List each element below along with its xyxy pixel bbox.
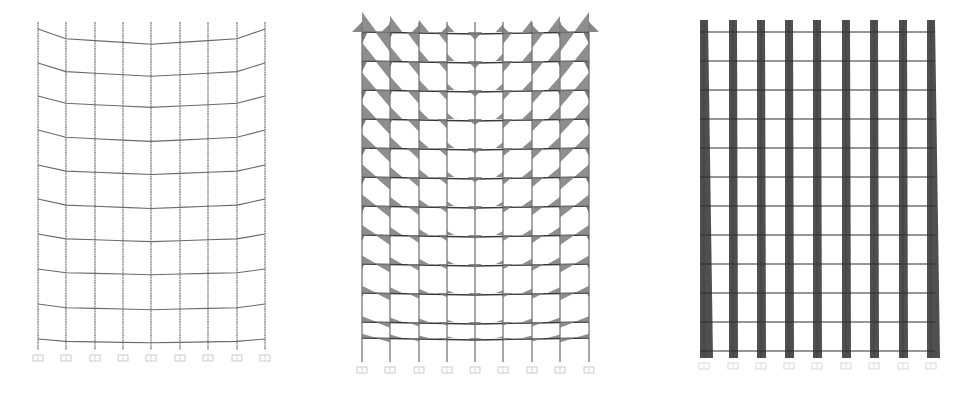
- moment-triangle: [437, 235, 447, 241]
- moment-triangle: [375, 119, 390, 135]
- moment-triangle: [560, 119, 575, 135]
- moment-triangle: [390, 46, 402, 61]
- moment-triangle: [447, 320, 454, 322]
- moment-triangle: [522, 169, 532, 177]
- roof-moment-triangle: [560, 24, 569, 33]
- moment-triangle: [496, 113, 503, 119]
- moment-triangle: [375, 293, 390, 300]
- moment-triangle: [407, 32, 419, 48]
- moment-triangle: [522, 80, 532, 90]
- moment-triangle: [574, 225, 589, 235]
- moment-triangle: [468, 61, 475, 68]
- moment-triangle: [560, 177, 575, 190]
- moment-triangle: [560, 338, 575, 342]
- column-moment-wedge: [362, 264, 364, 269]
- moment-triangle: [362, 334, 377, 338]
- moment-triangle: [574, 334, 589, 338]
- moment-triangle: [390, 197, 402, 206]
- moment-triangle: [503, 206, 513, 213]
- moment-triangle: [496, 261, 503, 264]
- moment-triangle: [419, 319, 429, 322]
- moment-triangle: [362, 42, 377, 61]
- moment-triangle: [560, 235, 575, 245]
- moment-triangle: [522, 229, 532, 235]
- column-moment-wedge: [584, 90, 589, 100]
- moment-triangle: [560, 206, 575, 217]
- moment-triangle: [503, 177, 513, 185]
- roof-moment-triangle: [382, 24, 391, 33]
- moment-triangle: [407, 148, 419, 159]
- moment-triangle: [362, 316, 377, 322]
- moment-triangle: [560, 90, 575, 107]
- moment-triangle: [390, 257, 402, 264]
- moment-triangle: [548, 197, 560, 206]
- moment-triangle: [437, 177, 447, 185]
- column-moment-wedge: [584, 119, 589, 128]
- moment-triangle: [548, 227, 560, 235]
- moment-triangle: [532, 90, 544, 104]
- moment-triangle: [419, 229, 429, 235]
- roof-moment-triangle: [352, 22, 362, 32]
- moment-triangle: [437, 293, 447, 297]
- moment-triangle: [560, 61, 575, 80]
- moment-triangle: [419, 139, 429, 148]
- moment-triangle: [475, 61, 482, 68]
- moment-triangle: [419, 199, 429, 206]
- moment-triangle: [375, 235, 390, 245]
- moment-triangle: [496, 142, 503, 148]
- moment-triangle: [574, 286, 589, 293]
- moment-triangle: [532, 61, 544, 76]
- moment-triangle: [407, 264, 419, 271]
- moment-triangle: [447, 290, 454, 293]
- moment-triangle: [390, 287, 402, 293]
- axial-force-bar: [870, 20, 879, 358]
- column-moment-wedge: [584, 61, 589, 72]
- moment-triangle: [437, 206, 447, 213]
- moment-triangle: [475, 119, 482, 125]
- axial-force-bar: [785, 20, 794, 358]
- moment-triangle: [475, 148, 482, 154]
- moment-triangle: [375, 177, 390, 190]
- moment-triangle: [503, 293, 513, 297]
- moment-triangle: [468, 90, 475, 97]
- moment-triangle: [560, 293, 575, 300]
- moment-triangle: [548, 137, 560, 148]
- column-moment-wedge: [586, 206, 589, 213]
- moment-triangle: [548, 46, 560, 61]
- axial-force-bar: [729, 20, 738, 358]
- moment-triangle: [375, 61, 390, 80]
- moment-triangle: [574, 255, 589, 264]
- moment-triangle: [419, 335, 429, 338]
- moment-triangle: [496, 201, 503, 206]
- moment-triangle: [574, 73, 589, 90]
- moment-triangle: [548, 257, 560, 264]
- column-moment-wedge: [390, 61, 393, 67]
- moment-triangle: [503, 235, 513, 241]
- moment-triangle: [468, 148, 475, 154]
- column-moment-wedge: [362, 32, 368, 44]
- moment-triangle: [532, 235, 544, 243]
- moment-triangle: [574, 42, 589, 61]
- moment-triangle: [419, 289, 429, 293]
- moment-triangle: [496, 320, 503, 322]
- moment-triangle: [475, 90, 482, 97]
- column-moment-wedge: [362, 148, 366, 156]
- moment-triangle: [532, 119, 544, 132]
- moment-triangle: [419, 169, 429, 177]
- moment-triangle: [390, 137, 402, 148]
- moment-triangle: [362, 164, 377, 177]
- moment-triangle: [447, 142, 454, 148]
- moment-triangle: [496, 83, 503, 90]
- moment-triangle: [419, 20, 429, 32]
- moment-triangle: [574, 134, 589, 148]
- column-moment-wedge: [585, 148, 589, 156]
- moment-triangle: [532, 264, 544, 271]
- moment-triangle: [447, 54, 454, 61]
- moment-triangle: [532, 206, 544, 215]
- moment-triangle: [574, 103, 589, 119]
- moment-triangle: [522, 20, 532, 32]
- column-moment-wedge: [585, 177, 589, 185]
- moment-triangle: [548, 76, 560, 90]
- structural-diagram-canvas: [0, 0, 976, 403]
- moment-triangle: [447, 261, 454, 264]
